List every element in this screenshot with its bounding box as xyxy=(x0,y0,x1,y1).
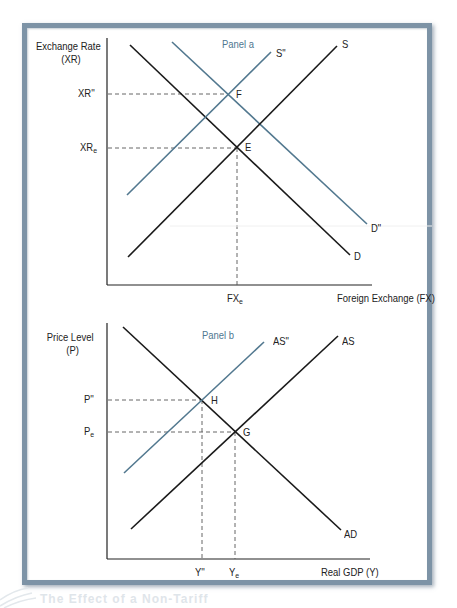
tick-y2: Y'' xyxy=(195,566,205,579)
tick-xr2: XR'' xyxy=(78,87,95,100)
y-axis-label-line2: (XR) xyxy=(34,53,103,66)
label-s: S xyxy=(342,38,348,51)
figure-caption: The Effect of a Non-Tariff xyxy=(40,592,208,606)
label-d2: D" xyxy=(371,222,381,235)
supply-curve-s2 xyxy=(127,52,271,195)
panel-b-y-axis-label: Price Level (P) xyxy=(40,331,100,357)
aggregate-supply-curve xyxy=(131,336,338,529)
tick-pe: Pe xyxy=(84,425,94,441)
label-as: AS xyxy=(342,335,355,348)
aggregate-demand-curve xyxy=(123,327,341,530)
y-axis-label-line2: (P) xyxy=(40,344,100,357)
tick-fxe: FXe xyxy=(227,292,243,308)
point-h: H xyxy=(211,394,218,407)
panel-b-graph xyxy=(107,323,370,559)
y-axis-label-line1: Price Level xyxy=(40,331,100,344)
point-f: F xyxy=(236,88,242,101)
tick-ye: Ye xyxy=(229,566,239,582)
label-d: D xyxy=(354,250,361,263)
demand-curve-d2 xyxy=(172,42,367,224)
panel-a-x-axis-label: Foreign Exchange (FX) xyxy=(337,292,435,305)
label-as2: AS" xyxy=(273,335,289,348)
supply-curve-s xyxy=(128,46,337,257)
panel-a-graph xyxy=(107,38,432,285)
aggregate-supply-curve-2 xyxy=(124,342,264,473)
tick-xre: XRe xyxy=(80,141,97,157)
tick-p2: P'' xyxy=(84,393,94,406)
y-axis-label-line1: Exchange Rate xyxy=(34,40,103,53)
label-s2: S" xyxy=(276,47,286,60)
point-g: G xyxy=(243,426,250,439)
point-e: E xyxy=(245,141,251,154)
panel-b-x-axis-label: Real GDP (Y) xyxy=(321,566,379,579)
panel-a-title: Panel a xyxy=(222,38,254,51)
demand-curve-d xyxy=(130,45,350,255)
label-ad: AD xyxy=(344,528,357,541)
panel-a-y-axis-label: Exchange Rate (XR) xyxy=(34,40,103,66)
corner-decoration xyxy=(0,588,36,608)
panel-b-title: Panel b xyxy=(202,329,234,342)
